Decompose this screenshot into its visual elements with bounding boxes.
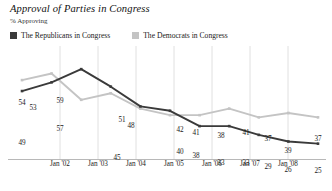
data-point-marker [80, 68, 83, 71]
data-point-marker [258, 134, 261, 137]
chart-subtitle: % Approving [10, 17, 48, 25]
legend-swatch-republicans [10, 32, 17, 39]
data-point-marker [317, 116, 320, 119]
x-tick-label: Jan '08 [278, 160, 298, 168]
chart-card: Approval of Parties in Congress % Approv… [0, 0, 332, 191]
legend-swatch-democrats [132, 32, 139, 39]
x-axis-labels: Jan '02Jan '03Jan '04Jan '05Jan '06Jan '… [0, 160, 332, 174]
data-point-marker [258, 116, 261, 119]
legend-label-democrats: The Democrats in Congress [143, 31, 228, 40]
x-tick-label: Jan '04 [126, 160, 146, 168]
data-point-marker [198, 114, 201, 117]
x-tick-label: Jan '06 [202, 160, 222, 168]
data-point-marker [169, 114, 172, 117]
x-tick-label: Jan '03 [88, 160, 108, 168]
data-point-marker [169, 109, 172, 112]
legend-label-republicans: The Republicans in Congress [21, 31, 110, 40]
series-line [22, 69, 318, 144]
x-tick-label: Jan '05 [164, 160, 184, 168]
data-point-marker [287, 112, 290, 115]
series-republicans [21, 68, 320, 145]
page-title: Approval of Parties in Congress [10, 3, 150, 14]
data-point-marker [50, 72, 53, 75]
data-point-marker [287, 140, 290, 143]
data-point-marker [110, 85, 113, 88]
data-point-marker [50, 81, 53, 84]
data-point-marker [21, 90, 24, 93]
gridlines [60, 46, 288, 160]
data-point-marker [139, 105, 142, 108]
legend-item-democrats[interactable]: The Democrats in Congress [132, 31, 228, 40]
data-point-marker [317, 142, 320, 145]
x-tick-label: Jan '07 [240, 160, 260, 168]
chart-legend: The Republicans in Congress The Democrat… [10, 31, 228, 40]
data-point-marker [228, 107, 231, 110]
plot-area: 5453495957455148424041383833413337293926… [0, 46, 332, 164]
data-point-marker [21, 79, 24, 82]
data-point-marker [80, 99, 83, 102]
x-tick-label: Jan '02 [50, 160, 70, 168]
data-point-marker [198, 125, 201, 128]
line-chart-svg [0, 46, 332, 164]
legend-item-republicans[interactable]: The Republicans in Congress [10, 31, 110, 40]
data-point-marker [228, 125, 231, 128]
data-point-marker [110, 92, 113, 95]
